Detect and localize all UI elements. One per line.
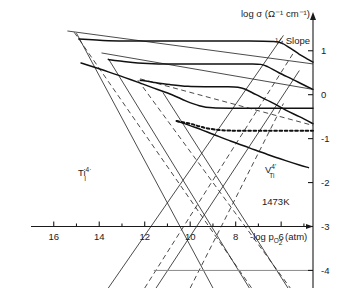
y-tick-label-group: 10-1-2-3-4: [321, 45, 329, 276]
ti-label-subscript: I: [84, 175, 86, 182]
isotherm-curve-isotherm-4: [81, 63, 313, 108]
y-tick-label-0: 0: [321, 89, 326, 100]
y-tick-label-1: 1: [321, 45, 326, 56]
y-axis-title: log σ (Ω⁻¹ cm⁻¹): [241, 8, 310, 19]
y-tick-label-neg2: -2: [321, 177, 329, 188]
x-tick-label-16: 16: [48, 231, 59, 242]
defect-line-V_Ti-line-1: [108, 35, 283, 288]
defect-label-ti-vacancy: V4'Ti: [265, 163, 276, 179]
x-tick-label-8: 8: [233, 231, 238, 242]
conductivity-chart-figure: 1614121086 10-1-2-3-4 log σ (Ω⁻¹ cm⁻¹) -…: [0, 0, 355, 304]
defect-line-Ti_I-line-2: [74, 32, 251, 288]
x-tick-label-14: 14: [94, 231, 105, 242]
x-axis-title-main: -log p: [250, 231, 274, 242]
defect-line-V_Ti-line-2: [156, 71, 299, 288]
axes-group: [31, 12, 316, 288]
defect-label-ti-interstitial: Ti4·I: [78, 166, 91, 182]
x-tick-label-10: 10: [185, 231, 196, 242]
ti-label-superscript: 4·: [86, 166, 92, 173]
isotherm-curve-isotherm-2: [108, 60, 313, 90]
y-tick-label-neg1: -1: [321, 133, 329, 144]
defect-line-Ti_I-line-4: [138, 80, 290, 288]
y-axis-arrow-icon: [310, 12, 316, 20]
y-tick-label-neg4: -4: [321, 265, 329, 276]
v-label-subscript: Ti: [269, 172, 274, 179]
v-label-superscript: 4': [271, 163, 276, 170]
x-axis-title-unit: (atm): [285, 231, 307, 242]
y-tick-label-neg3: -3: [321, 221, 329, 232]
slope-annotation: -¼ Slope: [272, 35, 310, 46]
temperature-annotation: 1473K: [262, 196, 290, 207]
defect-line-quarter-slope-guide-3: [140, 79, 313, 126]
x-tick-label-group: 1614121086: [48, 231, 283, 242]
x-tick-label-12: 12: [139, 231, 150, 242]
plot-canvas: 1614121086 10-1-2-3-4 log σ (Ω⁻¹ cm⁻¹) -…: [0, 0, 355, 304]
defect-line-group: [67, 31, 313, 288]
defect-line-Ti_I-line-1: [76, 33, 212, 288]
defect-line-quarter-slope-guide-2: [102, 53, 314, 89]
